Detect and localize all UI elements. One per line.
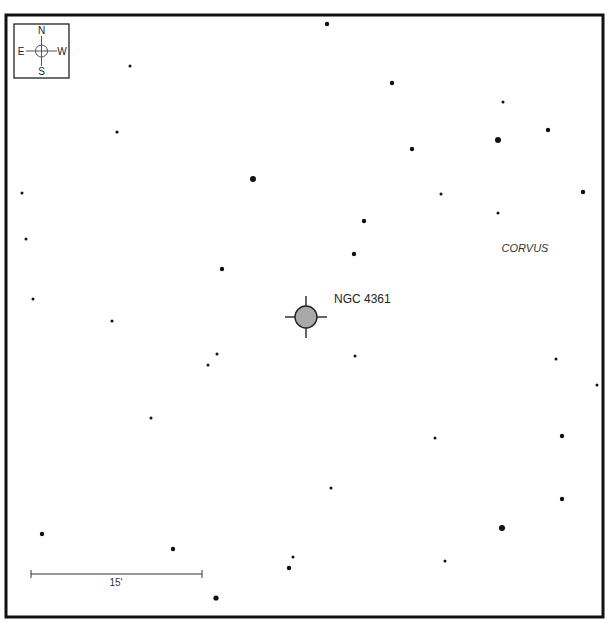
star bbox=[581, 190, 585, 194]
star bbox=[292, 556, 295, 559]
star bbox=[40, 532, 44, 536]
scale-bar-label: 15' bbox=[109, 577, 122, 588]
star bbox=[287, 566, 291, 570]
star bbox=[330, 487, 333, 490]
star bbox=[354, 355, 357, 358]
star bbox=[390, 81, 394, 85]
star bbox=[213, 595, 218, 600]
star bbox=[434, 437, 437, 440]
star bbox=[171, 547, 175, 551]
star bbox=[410, 147, 414, 151]
star bbox=[362, 219, 366, 223]
star bbox=[150, 417, 153, 420]
star bbox=[111, 320, 114, 323]
object-label: NGC 4361 bbox=[334, 292, 391, 306]
star bbox=[25, 238, 28, 241]
star bbox=[207, 364, 210, 367]
compass-south-label: S bbox=[38, 66, 45, 77]
star bbox=[495, 137, 501, 143]
compass-east-label: E bbox=[18, 46, 25, 57]
compass: N S E W bbox=[14, 24, 69, 78]
star bbox=[216, 353, 219, 356]
star bbox=[250, 176, 256, 182]
compass-west-label: W bbox=[57, 46, 67, 57]
star bbox=[440, 193, 443, 196]
star bbox=[502, 101, 505, 104]
star bbox=[499, 525, 505, 531]
star bbox=[115, 130, 118, 133]
star bbox=[129, 65, 132, 68]
constellation-label: CORVUS bbox=[502, 242, 550, 254]
star bbox=[325, 22, 329, 26]
star bbox=[220, 267, 224, 271]
star bbox=[352, 252, 356, 256]
star bbox=[546, 128, 550, 132]
star bbox=[555, 358, 558, 361]
star bbox=[596, 384, 599, 387]
finder-chart: N S E W NGC 4361 CORVUS 15' bbox=[0, 0, 609, 629]
star bbox=[32, 298, 35, 301]
compass-north-label: N bbox=[38, 25, 45, 36]
star bbox=[21, 192, 24, 195]
star bbox=[560, 434, 564, 438]
star bbox=[497, 212, 500, 215]
star bbox=[560, 497, 564, 501]
star bbox=[444, 560, 447, 563]
